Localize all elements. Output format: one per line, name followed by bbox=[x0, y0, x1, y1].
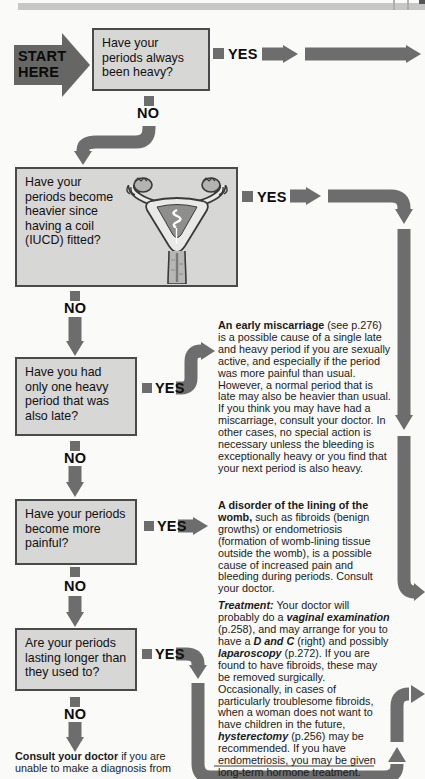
arrowhead-no1 bbox=[74, 151, 92, 165]
question-5-text: Are your periods lasting longer than the… bbox=[25, 636, 127, 680]
arrowhead-yes1-a bbox=[283, 45, 298, 63]
treatment-text: (right) and possibly bbox=[294, 635, 388, 647]
no-label-3: NO bbox=[64, 450, 86, 466]
treatment-term-hysterectomy: hysterectomy bbox=[218, 730, 288, 742]
womb-paragraph: A disorder of the lining of the womb, su… bbox=[218, 500, 390, 595]
arrowhead-yes2-b bbox=[395, 209, 413, 224]
yes-label-5: YES bbox=[155, 646, 185, 662]
info-miscarriage-body: (see p.276) is a possible cause of a sin… bbox=[218, 319, 391, 474]
no-label-4: NO bbox=[64, 578, 86, 594]
info-text-miscarriage: An early miscarriage (see p.276) is a po… bbox=[218, 320, 392, 475]
treatment-term-vaginal-examination: vaginal examination bbox=[286, 611, 389, 623]
start-label: START HERE bbox=[18, 48, 66, 80]
question-box-1: Have your periods always been heavy? bbox=[92, 28, 210, 91]
arrow-right-channel-2 bbox=[404, 436, 415, 592]
arrowhead-no2 bbox=[66, 341, 84, 356]
arrowhead-bottom-exit bbox=[411, 685, 425, 703]
info-text-womb: A disorder of the lining of the womb, su… bbox=[218, 500, 390, 779]
treatment-term-laparoscopy: laparoscopy bbox=[218, 647, 282, 659]
arrowhead-yes5 bbox=[189, 665, 207, 679]
yes3-square bbox=[142, 383, 152, 393]
question-box-5: Are your periods lasting longer than the… bbox=[15, 628, 137, 691]
treatment-lead: Treatment: bbox=[218, 599, 274, 611]
yes-label-3: YES bbox=[155, 380, 185, 396]
arrowhead-bottom-up bbox=[388, 747, 406, 762]
uterus-iucd-illustration bbox=[121, 172, 233, 284]
arrowhead-right-channel-1 bbox=[395, 415, 413, 430]
question-box-2: Have your periods become heavier since h… bbox=[15, 167, 238, 287]
footer-consult-note: Consult your doctor if you are unable to… bbox=[15, 751, 187, 775]
footer-lead: Consult your doctor bbox=[15, 750, 118, 762]
no-label-5: NO bbox=[64, 706, 86, 722]
treatment-paragraph: Treatment: Your doctor will probably do … bbox=[218, 600, 390, 779]
no-label-1: NO bbox=[137, 105, 159, 121]
yes-label-1: YES bbox=[228, 46, 258, 62]
arrow-no1 bbox=[83, 126, 149, 151]
treatment-text: (p.272). If you are found to have fibroi… bbox=[218, 647, 377, 730]
arrowhead-yes3 bbox=[201, 342, 215, 360]
arrowhead-no3 bbox=[66, 482, 84, 497]
yes-label-4: YES bbox=[157, 518, 187, 534]
question-4-text: Have your periods become more painful? bbox=[25, 507, 127, 551]
question-box-4: Have your periods become more painful? bbox=[15, 499, 137, 565]
yes5-square bbox=[142, 649, 152, 659]
question-box-3: Have you had only one heavy period that … bbox=[15, 357, 137, 436]
treatment-term-d-and-c: D and C bbox=[253, 635, 294, 647]
question-3-text: Have you had only one heavy period that … bbox=[25, 365, 127, 423]
info-miscarriage-lead: An early miscarriage bbox=[218, 319, 324, 331]
yes1-square bbox=[213, 48, 224, 59]
womb-body: such as fibroids (benign growths) or end… bbox=[218, 511, 373, 594]
arrowhead-yes2-a bbox=[306, 187, 321, 205]
no4-square bbox=[70, 567, 80, 577]
arrowhead-no4 bbox=[66, 612, 84, 627]
arrowhead-right-exit bbox=[414, 583, 425, 601]
yes-label-2: YES bbox=[257, 189, 287, 205]
yes4-square bbox=[144, 521, 154, 531]
question-2-text: Have your periods become heavier since h… bbox=[25, 175, 121, 248]
arrow-yes2-b bbox=[328, 196, 404, 209]
arrowhead-yes1-b bbox=[406, 45, 421, 63]
flowchart-page: START HERE Have your periods always been… bbox=[0, 0, 425, 779]
arrowhead-yes4 bbox=[193, 517, 208, 535]
question-1-text: Have your periods always been heavy? bbox=[102, 36, 200, 80]
yes2-square bbox=[242, 191, 253, 202]
arrow-bottom-exit bbox=[397, 694, 409, 742]
no-label-2: NO bbox=[64, 300, 86, 316]
